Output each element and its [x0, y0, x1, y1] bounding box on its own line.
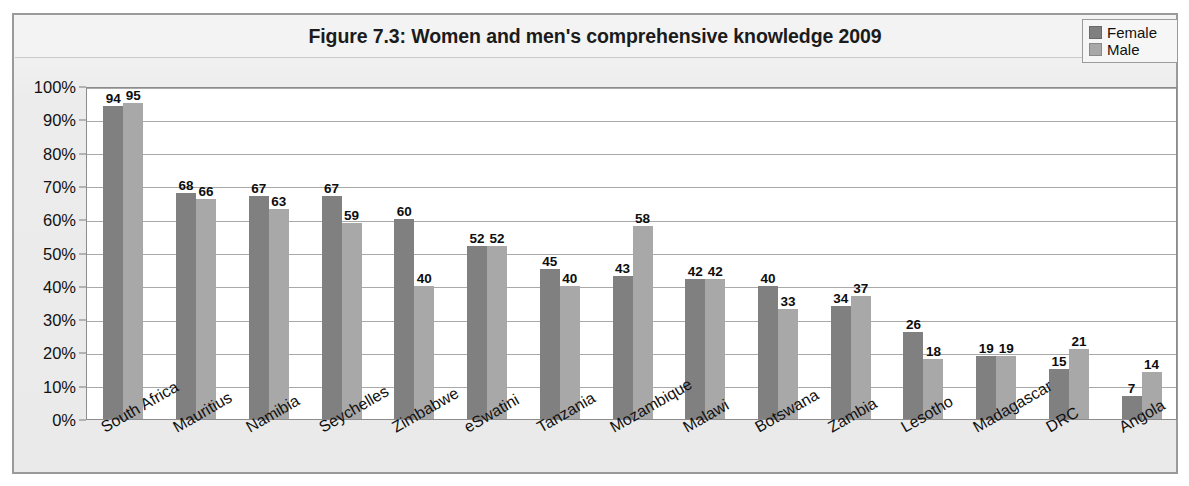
bar-male[interactable]: [123, 103, 143, 419]
bar-group: [322, 88, 362, 419]
bar-value-label: 40: [760, 271, 775, 286]
legend-item-female[interactable]: Female: [1089, 24, 1172, 41]
y-axis-tick-mark: [79, 220, 86, 221]
bar-value-label: 34: [833, 291, 848, 306]
bar-male[interactable]: [342, 223, 362, 419]
bar-female[interactable]: [394, 219, 414, 419]
bar-male[interactable]: [487, 246, 507, 419]
bar-value-label: 42: [708, 264, 723, 279]
plot-wrapper: 9495686667636759604052524540435842424033…: [86, 87, 1177, 420]
bar-male[interactable]: [196, 199, 216, 419]
bar-value-label: 68: [179, 178, 194, 193]
y-axis-tick-mark: [79, 420, 86, 421]
bar-value-label: 19: [999, 341, 1014, 356]
bar-value-label: 52: [470, 231, 485, 246]
y-axis-tick-label: 50%: [43, 244, 76, 263]
bar-value-label: 60: [397, 204, 412, 219]
bar-group: [176, 88, 216, 419]
bar-value-label: 42: [688, 264, 703, 279]
y-axis-tick-mark: [79, 87, 86, 88]
bar-group: [685, 88, 725, 419]
bar-group: [467, 88, 507, 419]
legend-item-male[interactable]: Male: [1089, 41, 1172, 58]
page-title: Figure 7.3: Women and men's comprehensiv…: [15, 16, 1175, 57]
y-axis-tick-mark: [79, 120, 86, 121]
bar-male[interactable]: [633, 226, 653, 419]
bar-value-label: 95: [126, 88, 141, 103]
bar-female[interactable]: [103, 106, 123, 419]
bar-female[interactable]: [831, 306, 851, 419]
y-axis-tick-label: 10%: [43, 377, 76, 396]
bar-value-label: 37: [853, 281, 868, 296]
chart-title-band: Figure 7.3: Women and men's comprehensiv…: [15, 16, 1175, 58]
bar-value-label: 52: [490, 231, 505, 246]
bar-female[interactable]: [249, 196, 269, 419]
bar-female[interactable]: [176, 193, 196, 419]
bar-value-label: 15: [1051, 354, 1066, 369]
y-axis-tick-mark: [79, 353, 86, 354]
bar-value-label: 14: [1144, 357, 1159, 372]
bar-value-label: 40: [562, 271, 577, 286]
legend-label-female: Female: [1107, 24, 1157, 41]
chart-frame: Figure 7.3: Women and men's comprehensiv…: [12, 13, 1178, 474]
bar-value-label: 21: [1071, 334, 1086, 349]
bar-female[interactable]: [903, 332, 923, 419]
y-axis-tick-mark: [79, 286, 86, 287]
bar-value-label: 67: [251, 181, 266, 196]
legend-swatch-icon-male: [1089, 43, 1102, 56]
bar-value-label: 59: [344, 208, 359, 223]
legend-swatch-icon-female: [1089, 26, 1102, 39]
bar-group: [103, 88, 143, 419]
bar-group: [613, 88, 653, 419]
y-axis-tick-mark: [79, 186, 86, 187]
y-axis-tick-mark: [79, 153, 86, 154]
x-axis: South AfricaMauritiusNamibiaSeychellesZi…: [86, 421, 1177, 486]
bar-group: [394, 88, 434, 419]
bar-value-label: 26: [906, 317, 921, 332]
bar-group: [976, 88, 1016, 419]
y-axis-tick-label: 100%: [34, 78, 76, 97]
bar-value-label: 40: [417, 271, 432, 286]
y-axis-tick-label: 90%: [43, 111, 76, 130]
bar-female[interactable]: [685, 279, 705, 419]
bar-value-label: 43: [615, 261, 630, 276]
bar-group: [1049, 88, 1089, 419]
bar-group: [831, 88, 871, 419]
bar-female[interactable]: [467, 246, 487, 419]
bar-group: [903, 88, 943, 419]
bar-value-label: 19: [979, 341, 994, 356]
bar-value-label: 7: [1128, 381, 1136, 396]
y-axis-tick-mark: [79, 253, 86, 254]
y-axis-tick-mark: [79, 386, 86, 387]
bar-value-label: 94: [106, 91, 121, 106]
bar-value-label: 63: [271, 194, 286, 209]
bar-female[interactable]: [322, 196, 342, 419]
y-axis-tick-label: 30%: [43, 311, 76, 330]
bar-group: [249, 88, 289, 419]
bar-female[interactable]: [613, 276, 633, 419]
y-axis-tick-mark: [79, 320, 86, 321]
y-axis-tick-label: 20%: [43, 344, 76, 363]
bar-value-label: 67: [324, 181, 339, 196]
bar-female[interactable]: [758, 286, 778, 419]
bar-female[interactable]: [540, 269, 560, 419]
y-axis-tick-label: 0%: [52, 411, 76, 430]
y-axis-tick-label: 60%: [43, 211, 76, 230]
bar-male[interactable]: [269, 209, 289, 419]
y-axis-tick-label: 70%: [43, 177, 76, 196]
plot-area: 9495686667636759604052524540435842424033…: [86, 87, 1177, 420]
y-axis: 100%90%80%70%60%50%40%30%20%10%0%: [26, 87, 86, 420]
bar-value-label: 33: [780, 294, 795, 309]
bar-group: [758, 88, 798, 419]
bar-value-label: 18: [926, 344, 941, 359]
chart-legend: Female Male: [1082, 19, 1178, 63]
bar-value-label: 58: [635, 211, 650, 226]
y-axis-tick-label: 40%: [43, 277, 76, 296]
y-axis-tick-label: 80%: [43, 144, 76, 163]
bar-value-label: 45: [542, 254, 557, 269]
bar-value-label: 66: [199, 184, 214, 199]
legend-label-male: Male: [1107, 41, 1140, 58]
